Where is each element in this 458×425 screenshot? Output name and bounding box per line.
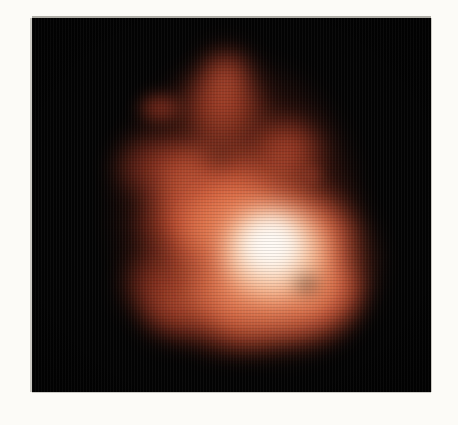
figure-root bbox=[0, 0, 458, 425]
lobe-north-tip bbox=[200, 46, 252, 98]
internal-mottle-b bbox=[200, 140, 240, 174]
detached-knot-northwest bbox=[137, 92, 183, 124]
internal-mottle-a bbox=[290, 272, 324, 298]
emission-source-layer bbox=[32, 18, 431, 392]
bright-core-peak bbox=[244, 220, 300, 272]
intensity-map-panel bbox=[32, 18, 431, 392]
faint-spot-east bbox=[302, 164, 324, 186]
